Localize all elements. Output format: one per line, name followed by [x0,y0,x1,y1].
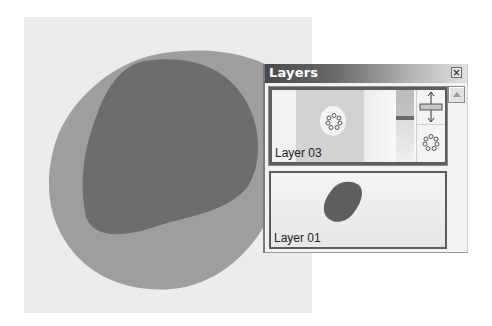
layer-item-layer-03[interactable]: Layer 03 [269,87,447,165]
opacity-slider[interactable] [396,90,414,162]
transform-handle-button[interactable] [416,90,445,125]
thumbnail-fade [364,90,396,162]
layer-name: Layer 03 [275,146,322,160]
layers-panel-title: Layers [269,65,318,80]
opacity-slider-thumb[interactable] [396,116,414,120]
selection-marquee-icon [325,113,343,131]
close-icon[interactable]: × [451,67,462,78]
layer-name: Layer 01 [274,231,321,245]
transform-handle-icon [417,90,445,124]
scroll-up-button[interactable] [448,86,465,103]
selection-marquee-button[interactable] [416,125,445,162]
layer-item-layer-01[interactable]: Layer 01 [269,171,447,249]
layers-panel: Layers × [263,64,468,253]
scroll-up-arrow-icon [453,92,461,97]
layers-panel-titlebar[interactable]: Layers × [265,64,467,83]
selection-marquee-icon [422,134,440,152]
